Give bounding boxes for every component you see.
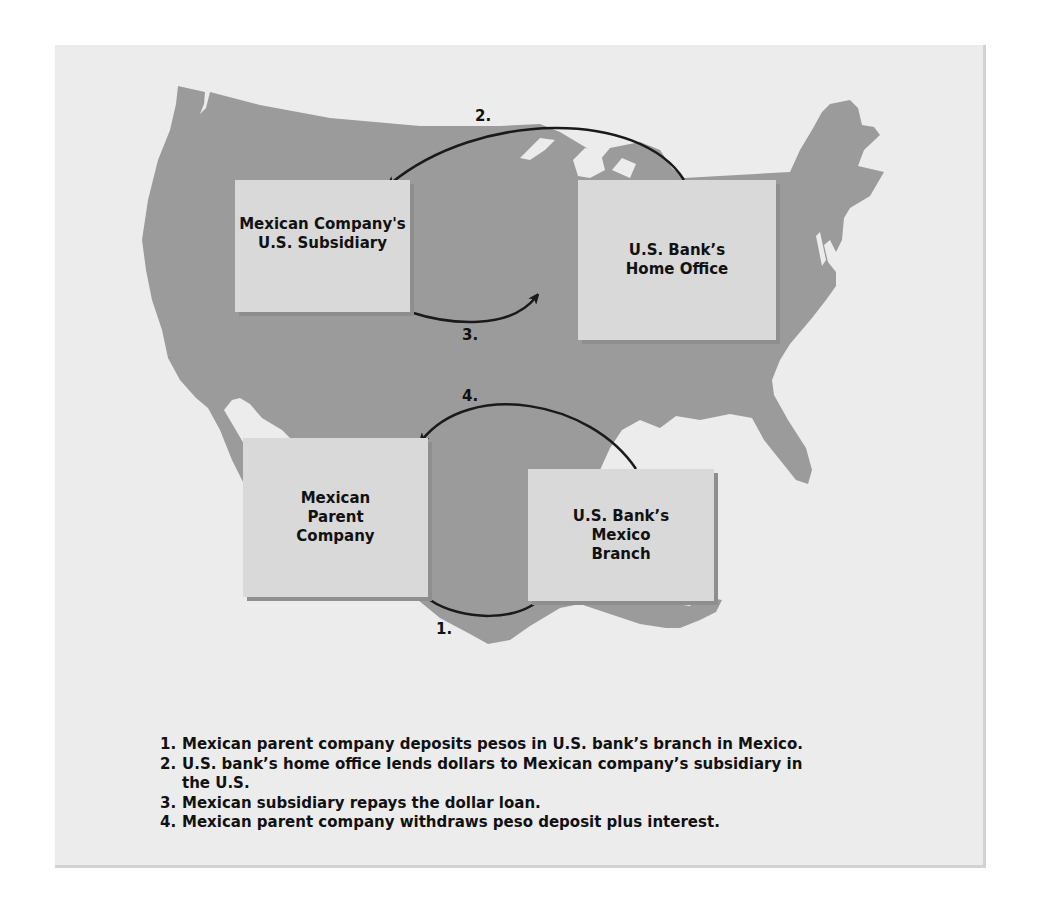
legend-item-3: 3. Mexican subsidiary repays the dollar … (160, 794, 940, 814)
legend-number: 4. (160, 813, 182, 833)
legend-item-4: 4. Mexican parent company withdraws peso… (160, 813, 940, 833)
node-label-line: U.S. Bank’s (573, 507, 669, 526)
node-label-line: U.S. Subsidiary (239, 234, 406, 253)
node-label-line: Mexican (296, 489, 374, 508)
node-mexican-parent-company: Mexican Parent Company (243, 438, 428, 597)
legend-text: U.S. bank’s home office lends dollars to… (182, 755, 812, 794)
node-label-line: Branch (573, 545, 669, 564)
legend-text: Mexican parent company deposits pesos in… (182, 735, 940, 755)
node-us-bank-mexico-branch: U.S. Bank’s Mexico Branch (528, 469, 714, 601)
node-label-line: Company (296, 527, 374, 546)
node-label-line: Mexican Company's (239, 215, 406, 234)
legend-number: 1. (160, 735, 182, 755)
arrow-label-3: 3. (462, 326, 478, 344)
arrow-label-2: 2. (475, 107, 491, 125)
legend-item-2: 2. U.S. bank’s home office lends dollars… (160, 755, 940, 794)
legend-item-1: 1. Mexican parent company deposits pesos… (160, 735, 940, 755)
legend-text: Mexican subsidiary repays the dollar loa… (182, 794, 940, 814)
node-us-bank-home-office: U.S. Bank’s Home Office (578, 180, 776, 340)
node-label-line: Mexico (573, 526, 669, 545)
legend-number: 3. (160, 794, 182, 814)
arrow-label-1: 1. (436, 620, 452, 638)
node-label-line: U.S. Bank’s (626, 241, 728, 260)
arrow-label-4: 4. (462, 387, 478, 405)
node-label-line: Home Office (626, 260, 728, 279)
legend: 1. Mexican parent company deposits pesos… (160, 735, 940, 833)
legend-text: Mexican parent company withdraws peso de… (182, 813, 940, 833)
node-label-line: Parent (296, 508, 374, 527)
node-mexican-company-subsidiary: Mexican Company's U.S. Subsidiary (235, 180, 410, 312)
legend-number: 2. (160, 755, 182, 794)
